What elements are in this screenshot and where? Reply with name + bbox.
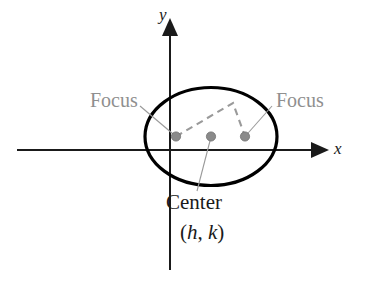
diagram-canvas bbox=[0, 0, 367, 288]
coord-h: h bbox=[187, 220, 198, 244]
focal-radii-dashed bbox=[176, 103, 245, 137]
center-coordinates-label: (h, k) bbox=[180, 222, 224, 243]
center-point bbox=[206, 132, 215, 141]
y-axis-label: y bbox=[159, 6, 167, 23]
coord-comma: , bbox=[198, 220, 209, 244]
paren-open: ( bbox=[180, 220, 187, 244]
coord-k: k bbox=[208, 220, 217, 244]
x-axis-label: x bbox=[334, 140, 342, 157]
focus-left-label: Focus bbox=[90, 90, 138, 110]
leader-line-center bbox=[197, 137, 211, 191]
focus-right-point bbox=[240, 132, 249, 141]
leader-line-focus-right bbox=[245, 106, 272, 137]
paren-close: ) bbox=[217, 220, 224, 244]
ellipse-diagram-figure: Focus Focus Center (h, k) x y bbox=[0, 0, 367, 288]
center-label: Center bbox=[166, 192, 222, 213]
focus-left-point bbox=[171, 132, 180, 141]
focus-right-label: Focus bbox=[276, 90, 324, 110]
